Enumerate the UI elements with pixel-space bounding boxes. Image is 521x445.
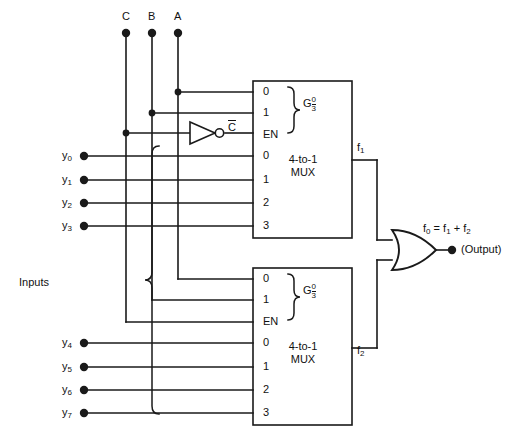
terminal-dot-y7 bbox=[80, 409, 88, 417]
label-not-c: C bbox=[228, 122, 236, 133]
mux-bottom-pin-s1: 1 bbox=[263, 294, 269, 305]
label-select-a: A bbox=[174, 11, 181, 22]
mux-bottom-pin-d1: 1 bbox=[263, 361, 269, 372]
terminal-dot-y2 bbox=[80, 199, 88, 207]
mux-bottom-pin-d2: 2 bbox=[263, 384, 269, 395]
not-gate-bubble bbox=[215, 129, 223, 137]
terminal-dot-y1 bbox=[80, 176, 88, 184]
mux-top-pin-s1: 1 bbox=[263, 107, 269, 118]
label-y7: y7 bbox=[62, 407, 72, 421]
terminal-dot-y3 bbox=[80, 222, 88, 230]
label-y1: y1 bbox=[62, 174, 72, 188]
mux-top-pin-d2: 2 bbox=[263, 197, 269, 208]
junction-a-top bbox=[175, 89, 182, 96]
label-y2: y2 bbox=[62, 197, 72, 211]
mux-top-pin-d0: 0 bbox=[263, 150, 269, 161]
terminal-dot-y5 bbox=[80, 363, 88, 371]
terminal-dot-y4 bbox=[80, 339, 88, 347]
mux-bottom-pin-d3: 3 bbox=[263, 407, 269, 418]
terminal-dot-output bbox=[448, 246, 456, 254]
mux-top-title: 4-to-1 MUX bbox=[272, 153, 334, 179]
terminal-dot-c bbox=[122, 29, 130, 37]
mux-bottom-group-brace bbox=[288, 274, 300, 320]
mux-bottom-group-label: G03 bbox=[303, 283, 316, 300]
mux-top-pin-d1: 1 bbox=[263, 174, 269, 185]
mux-top-pin-en: EN bbox=[263, 129, 278, 140]
label-output-equation: f0 = f1 + f2 bbox=[423, 223, 471, 237]
terminal-dot-y0 bbox=[80, 152, 88, 160]
label-y0: y0 bbox=[62, 150, 72, 164]
junction-c-top bbox=[123, 130, 130, 137]
label-select-c: C bbox=[122, 11, 130, 22]
label-y5: y5 bbox=[62, 361, 72, 375]
label-select-b: B bbox=[148, 11, 155, 22]
label-output-caption: (Output) bbox=[461, 244, 501, 255]
terminal-dot-b bbox=[148, 29, 156, 37]
label-inputs: Inputs bbox=[19, 277, 49, 288]
terminal-dot-y6 bbox=[80, 386, 88, 394]
not-gate-triangle bbox=[190, 122, 215, 144]
mux-top-group-brace bbox=[288, 87, 300, 133]
mux-bottom-pin-en: EN bbox=[263, 316, 278, 327]
terminal-dot-a bbox=[174, 29, 182, 37]
junction-b-top bbox=[149, 110, 156, 117]
mux-top-group-label: G03 bbox=[303, 96, 316, 113]
label-f1: f1 bbox=[357, 142, 365, 156]
mux-top-pin-s0: 0 bbox=[263, 86, 269, 97]
label-y6: y6 bbox=[62, 384, 72, 398]
mux-top-pin-d3: 3 bbox=[263, 220, 269, 231]
mux-bottom-pin-d0: 0 bbox=[263, 337, 269, 348]
label-f2: f2 bbox=[357, 345, 365, 359]
mux-bottom-title: 4-to-1 MUX bbox=[272, 340, 334, 366]
label-y3: y3 bbox=[62, 220, 72, 234]
circuit-diagram: C B A C Inputs y0 y1 y2 y3 y4 y5 y6 y7 0… bbox=[0, 0, 521, 445]
mux-bottom-pin-s0: 0 bbox=[263, 273, 269, 284]
label-y4: y4 bbox=[62, 337, 72, 351]
